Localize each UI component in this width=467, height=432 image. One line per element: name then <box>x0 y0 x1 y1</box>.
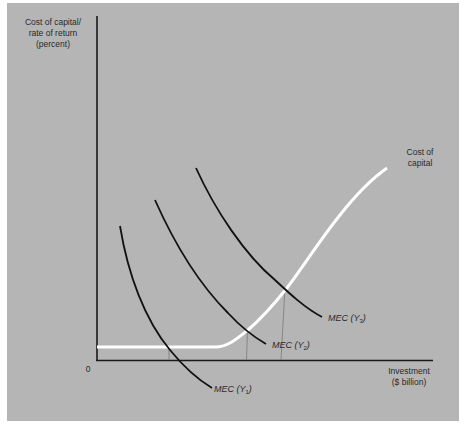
y-axis-label-line2: rate of return <box>29 28 78 38</box>
mec-y3-label: MEC (Y3) <box>328 313 366 324</box>
mec-curve-y2 <box>155 200 266 344</box>
x-axis-label-line1: Investment <box>388 366 430 376</box>
mec-y2-label: MEC (Y2) <box>272 340 310 351</box>
y-axis-label-line3: (percent) <box>36 39 70 49</box>
origin-label: 0 <box>86 364 91 374</box>
cost-of-capital-label-line1: Cost of <box>407 147 435 157</box>
cost-of-capital-label-line2: capital <box>408 158 433 168</box>
mec-y1-label: MEC (Y1) <box>214 384 252 395</box>
mec-curve-y1 <box>120 226 212 388</box>
y-axis-label-line1: Cost of capital/ <box>25 17 82 27</box>
x-axis-label-line2: ($ billion) <box>392 377 427 387</box>
drop-line-y2 <box>247 330 248 360</box>
mec-curve-y3 <box>196 168 322 317</box>
mec-diagram: Cost of capital/ rate of return (percent… <box>0 0 467 432</box>
